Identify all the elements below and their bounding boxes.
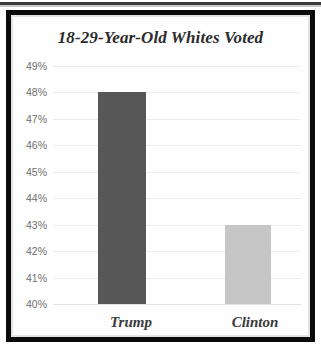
gridline bbox=[53, 145, 301, 146]
gridline bbox=[53, 92, 301, 93]
y-axis-tick-label: 41% bbox=[26, 272, 47, 284]
chart-frame: 18-29-Year-Old Whites Voted 49%48%47%46%… bbox=[6, 10, 315, 342]
y-axis-tick-label: 43% bbox=[26, 219, 47, 231]
y-axis-tick-label: 44% bbox=[26, 192, 47, 204]
y-axis-tick-label: 48% bbox=[26, 86, 47, 98]
gridline bbox=[53, 198, 301, 199]
y-axis-tick-label: 42% bbox=[26, 245, 47, 257]
y-axis-tick-label: 47% bbox=[26, 113, 47, 125]
gridline bbox=[53, 172, 301, 173]
y-axis-tick-label: 46% bbox=[26, 139, 47, 151]
y-axis-tick-label: 45% bbox=[26, 166, 47, 178]
chart-title: 18-29-Year-Old Whites Voted bbox=[13, 28, 308, 48]
bar-chart: 18-29-Year-Old Whites Voted 49%48%47%46%… bbox=[13, 17, 308, 335]
y-axis-tick-label: 49% bbox=[26, 60, 47, 72]
chart-frame-inner-border: 18-29-Year-Old Whites Voted 49%48%47%46%… bbox=[11, 15, 310, 337]
plot-area: 49%48%47%46%45%44%43%42%41%40% bbox=[53, 66, 301, 304]
gridline bbox=[53, 66, 301, 67]
page-top-rule-shadow bbox=[0, 5, 321, 7]
gridline bbox=[53, 304, 301, 305]
bar-clinton[interactable] bbox=[225, 225, 271, 304]
x-axis-label-clinton: Clinton bbox=[195, 314, 315, 331]
gridline bbox=[53, 119, 301, 120]
bar-trump[interactable] bbox=[98, 92, 146, 304]
y-axis-tick-label: 40% bbox=[26, 298, 47, 310]
x-axis-label-trump: Trump bbox=[71, 314, 191, 331]
